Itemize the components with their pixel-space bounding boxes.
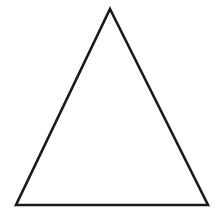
triangle-figure (0, 0, 219, 214)
image-canvas (0, 0, 219, 214)
